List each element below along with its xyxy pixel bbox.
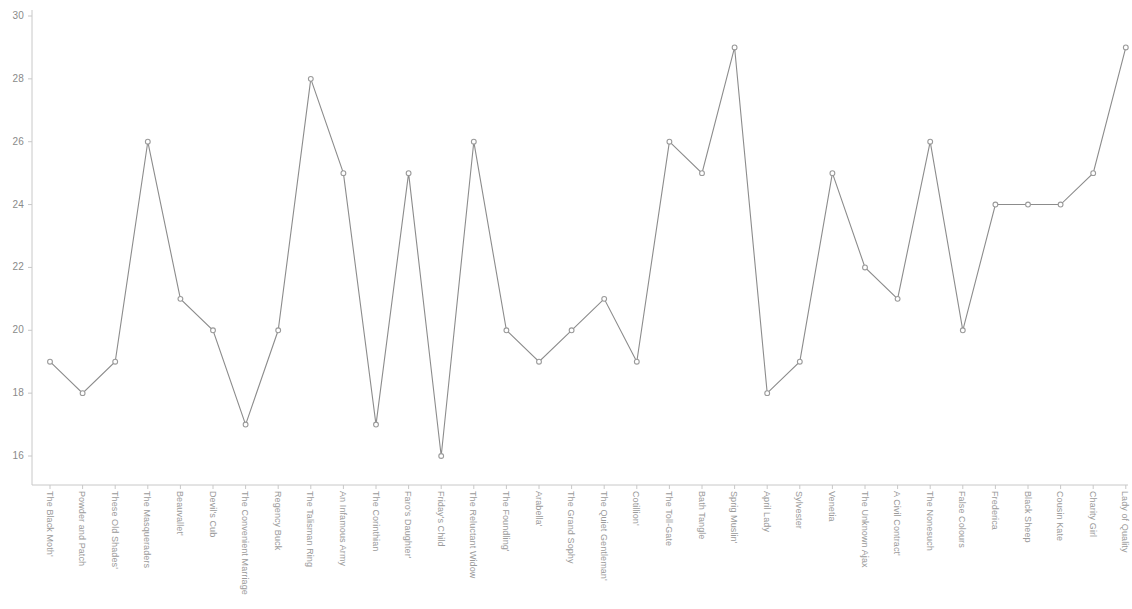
y-axis-tick-label: 18 — [2, 388, 24, 398]
x-axis-tick-label: These Old Shades' — [110, 491, 119, 569]
x-axis-tick-label: The Toll-Gate — [664, 491, 673, 546]
x-axis-tick-label: Charity Girl — [1088, 491, 1097, 537]
x-axis-tick-label: The Corinthian — [371, 491, 380, 551]
y-axis-tick-label: 24 — [2, 200, 24, 210]
x-axis-tick-label: Sprig Muslin' — [729, 491, 738, 544]
x-axis-tick-label: Cousin Kate — [1055, 491, 1064, 541]
x-axis-tick-label: The Grand Sophy — [566, 491, 575, 564]
y-axis-tick-label: 30 — [2, 11, 24, 21]
chart-series — [50, 47, 1126, 456]
x-axis-tick-label: Beauvallet' — [175, 491, 184, 536]
x-axis-tick-label: The Unknown Ajax — [860, 491, 869, 568]
x-axis-tick-label: An Infamous Army — [338, 491, 347, 566]
x-axis-tick-label: Sylvester — [794, 491, 803, 529]
chart-markers — [48, 45, 1129, 458]
x-axis-tick-label: The Black Moth' — [45, 491, 54, 557]
x-axis-tick-label: Frederica — [990, 491, 999, 530]
x-axis-tick-label: Cotillion' — [631, 491, 640, 526]
x-axis-tick-label: The Masqueraders — [142, 491, 151, 568]
x-axis-tick-label: Devil's Cub — [208, 491, 217, 537]
x-axis-tick-label: Lady of Quality — [1120, 491, 1129, 553]
x-axis-tick-label: The Reluctant Widow — [468, 491, 477, 578]
x-axis-tick-label: April Lady — [762, 491, 771, 532]
y-axis-tick-label: 16 — [2, 451, 24, 461]
x-axis-tick-label: Black Sheep — [1023, 491, 1032, 543]
x-axis-tick-label: Bath Tangle — [697, 491, 706, 539]
chart-axes — [28, 10, 1128, 489]
x-axis-tick-label: Powder and Patch — [77, 491, 86, 566]
x-axis-tick-label: The Nonesuch — [925, 491, 934, 551]
x-axis-tick-label: The Quiet Gentleman' — [599, 491, 608, 581]
y-axis-tick-label: 26 — [2, 137, 24, 147]
x-axis-tick-label: The Talisman Ring — [305, 491, 314, 567]
x-axis-tick-label: Regency Buck — [273, 491, 282, 550]
x-axis-tick-label: Friday's Child — [436, 491, 445, 547]
x-axis-tick-label: The Foundling' — [501, 491, 510, 552]
x-axis-tick-label: A Civil Contract' — [892, 491, 901, 556]
y-axis-tick-label: 20 — [2, 325, 24, 335]
x-axis-tick-label: Arabella' — [534, 491, 543, 527]
line-chart: 3028262422201816 The Black Moth'Powder a… — [0, 0, 1132, 609]
x-axis-tick-label: The Convenient Marriage — [240, 491, 249, 595]
x-axis-tick-label: False Colours — [957, 491, 966, 548]
y-axis-tick-label: 28 — [2, 74, 24, 84]
x-axis-tick-label: Faro's Daughter' — [403, 491, 412, 559]
y-axis-tick-label: 22 — [2, 262, 24, 272]
x-axis-tick-label: Venetia — [827, 491, 836, 522]
